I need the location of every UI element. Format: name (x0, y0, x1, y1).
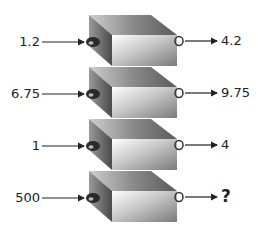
function-machine (42, 171, 217, 222)
output-value: 9.75 (221, 85, 250, 100)
function-machine (42, 67, 217, 118)
input-value: 1 (0, 138, 40, 153)
function-machine (42, 15, 217, 66)
input-value: 500 (0, 190, 40, 205)
input-value: 6.75 (0, 86, 40, 101)
output-value: 4 (221, 137, 229, 152)
output-value: 4.2 (221, 33, 242, 48)
function-machine (42, 119, 217, 170)
input-value: 1.2 (0, 34, 40, 49)
unknown-output: ? (221, 186, 231, 206)
